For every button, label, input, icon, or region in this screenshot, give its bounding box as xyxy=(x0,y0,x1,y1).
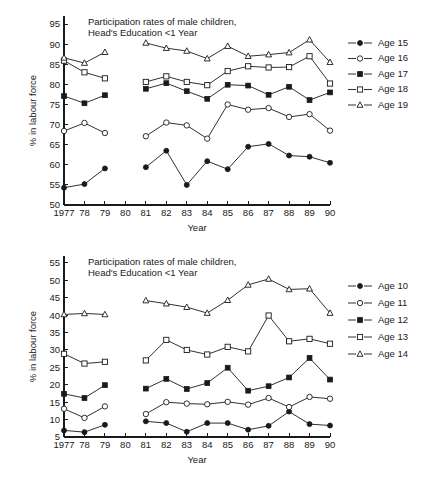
data-point xyxy=(102,359,107,364)
legend-item-age-19[interactable]: Age 19 xyxy=(348,99,408,110)
data-point xyxy=(143,358,148,363)
x-tick-label: 85 xyxy=(222,439,233,450)
y-tick-label: 45 xyxy=(49,292,60,303)
y-tick-label: 65 xyxy=(49,139,60,150)
x-tick-label: 84 xyxy=(202,439,213,450)
data-point xyxy=(225,297,231,303)
data-point xyxy=(307,54,312,59)
data-point xyxy=(82,120,87,125)
data-point xyxy=(184,79,189,84)
y-tick-label: 20 xyxy=(49,379,60,390)
data-point xyxy=(82,430,87,435)
data-point xyxy=(245,402,250,407)
x-axis-title: Year xyxy=(187,454,206,465)
chart-title-line2: Head's Education <1 Year xyxy=(88,27,197,38)
data-point xyxy=(327,341,332,346)
legend-label: Age 15 xyxy=(378,37,408,48)
data-point xyxy=(184,89,189,94)
data-point xyxy=(143,386,148,391)
legend-item-age-14[interactable]: Age 14 xyxy=(348,348,408,359)
x-tick-label: 83 xyxy=(181,439,192,450)
data-point xyxy=(143,411,148,416)
x-tick-label: 87 xyxy=(263,207,274,218)
data-point xyxy=(286,339,291,344)
data-point xyxy=(266,395,271,400)
data-point xyxy=(82,70,87,75)
legend-item-age-13[interactable]: Age 13 xyxy=(348,331,408,342)
x-tick-label: 87 xyxy=(263,439,274,450)
x-tick-label: 85 xyxy=(222,207,233,218)
data-point xyxy=(225,399,230,404)
series-age-19 xyxy=(61,37,333,66)
legend-item-age-11[interactable]: Age 11 xyxy=(348,297,407,308)
y-tick-label: 85 xyxy=(49,59,60,70)
data-point xyxy=(143,297,149,303)
data-point xyxy=(61,55,67,61)
data-point xyxy=(164,120,169,125)
series-age-18 xyxy=(61,54,332,88)
x-tick-label: 1977 xyxy=(53,439,74,450)
data-point xyxy=(307,37,313,43)
data-point xyxy=(164,148,169,153)
legend-filled-square-icon-marker xyxy=(358,72,363,77)
data-point xyxy=(225,365,230,370)
data-point xyxy=(307,98,312,103)
chart-title-line2: Head's Education <1 Year xyxy=(88,267,197,278)
series-age-17 xyxy=(62,81,333,106)
data-point xyxy=(246,144,251,149)
legend-item-age-10[interactable]: Age 10 xyxy=(348,280,408,291)
data-point xyxy=(327,128,332,133)
legend-item-age-12[interactable]: Age 12 xyxy=(348,314,408,325)
series-line xyxy=(146,144,330,185)
legend-filled-square-icon-marker xyxy=(358,318,363,323)
data-point xyxy=(143,40,149,46)
y-tick-label: 70 xyxy=(49,119,60,130)
y-tick-label: 25 xyxy=(49,362,60,373)
data-point xyxy=(143,134,148,139)
data-point xyxy=(266,313,271,318)
data-point xyxy=(61,406,66,411)
data-point xyxy=(205,381,210,386)
x-tick-label: 90 xyxy=(325,207,336,218)
data-point xyxy=(225,102,230,107)
data-point xyxy=(266,423,271,428)
legend-label: Age 13 xyxy=(378,331,408,342)
legend-label: Age 10 xyxy=(378,280,408,291)
legend-item-age-18[interactable]: Age 18 xyxy=(348,83,408,94)
data-point xyxy=(328,377,333,382)
data-point xyxy=(246,64,251,69)
data-point xyxy=(62,94,67,99)
series-age-11 xyxy=(61,394,332,420)
data-point xyxy=(103,93,108,98)
data-point xyxy=(266,105,271,110)
data-point xyxy=(205,159,210,164)
series-line xyxy=(146,56,330,85)
data-point xyxy=(164,81,169,86)
data-point xyxy=(61,128,66,133)
data-point xyxy=(307,111,312,116)
legend-item-age-15[interactable]: Age 15 xyxy=(348,37,408,48)
y-tick-label: 95 xyxy=(49,18,60,29)
series-line xyxy=(146,104,330,138)
legend-label: Age 19 xyxy=(378,99,408,110)
y-axis-title: % in labour force xyxy=(27,75,38,146)
legend-item-age-17[interactable]: Age 17 xyxy=(348,68,408,79)
data-point xyxy=(184,387,189,392)
x-tick-label: 82 xyxy=(161,207,172,218)
y-tick-label: 10 xyxy=(49,414,60,425)
legend-item-age-16[interactable]: Age 16 xyxy=(348,52,408,63)
chart-bottom: 5101520253035404550551977787980818283848… xyxy=(0,240,448,480)
data-point xyxy=(184,401,189,406)
data-point xyxy=(307,422,312,427)
x-tick-label: 81 xyxy=(141,439,152,450)
y-tick-label: 35 xyxy=(49,327,60,338)
data-point xyxy=(266,92,271,97)
y-tick-label: 30 xyxy=(49,344,60,355)
data-point xyxy=(82,182,87,187)
data-point xyxy=(205,136,210,141)
data-point xyxy=(225,82,230,87)
data-point xyxy=(81,310,87,316)
data-point xyxy=(225,43,231,49)
series-age-10 xyxy=(62,409,333,435)
data-point xyxy=(184,182,189,187)
